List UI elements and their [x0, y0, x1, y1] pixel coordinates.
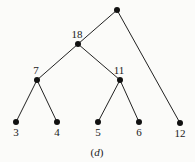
tree-diagram: 18127113456 (d) — [0, 0, 195, 162]
tree-edge — [117, 10, 180, 123]
node-label: 11 — [114, 64, 125, 76]
tree-node-5 — [95, 119, 101, 125]
tree-edge — [37, 80, 57, 122]
tree-edge — [16, 80, 37, 122]
node-label: 7 — [33, 64, 39, 76]
tree-node-4 — [54, 119, 60, 125]
node-label: 3 — [13, 126, 19, 138]
node-label: 18 — [72, 28, 84, 40]
figure-caption: (d) — [91, 146, 104, 159]
tree-node-18 — [75, 41, 81, 47]
tree-edge — [78, 10, 117, 44]
tree-node-11 — [117, 77, 123, 83]
tree-node-root — [114, 7, 120, 13]
tree-edge — [120, 80, 139, 122]
tree-edge — [98, 80, 120, 122]
tree-edges — [16, 10, 180, 123]
node-label: 12 — [175, 127, 186, 139]
tree-node-12 — [177, 120, 183, 126]
caption-close-paren: ) — [100, 146, 104, 159]
tree-node-3 — [13, 119, 19, 125]
node-label: 4 — [54, 126, 60, 138]
tree-node-7 — [34, 77, 40, 83]
node-label: 5 — [95, 126, 101, 138]
tree-edge — [37, 44, 78, 80]
node-label: 6 — [136, 126, 142, 138]
tree-node-6 — [136, 119, 142, 125]
